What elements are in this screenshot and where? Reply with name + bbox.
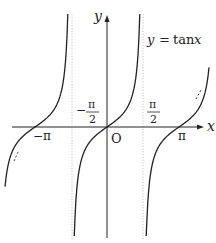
svg-text:=: = — [159, 32, 170, 47]
svg-text:x: x — [194, 32, 202, 47]
y-axis-arrow-icon — [105, 15, 110, 22]
left-continuation-dash — [14, 150, 19, 161]
x-axis-arrow-icon — [197, 125, 204, 130]
origin-label: O — [111, 131, 122, 146]
right-continuation-dash — [196, 90, 201, 99]
tick-neg-half-pi: − π 2 — [76, 98, 99, 126]
svg-text:π: π — [149, 98, 156, 111]
svg-text:2: 2 — [150, 113, 157, 126]
x-axis-label: x — [207, 118, 215, 134]
svg-text:tan: tan — [173, 32, 195, 47]
function-label: y = tan x — [146, 32, 202, 47]
tick-neg-pi: −π — [33, 129, 51, 143]
svg-text:2: 2 — [89, 113, 96, 126]
svg-text:−: − — [76, 103, 86, 117]
tan-graph: y x O y = tan x −π π − π 2 π 2 — [0, 0, 216, 243]
tick-half-pi: π 2 — [147, 98, 160, 126]
svg-text:y: y — [146, 32, 155, 47]
svg-text:π: π — [88, 98, 95, 111]
branch-right — [146, 67, 209, 236]
y-axis-label: y — [93, 8, 103, 24]
tick-pi: π — [178, 129, 186, 143]
